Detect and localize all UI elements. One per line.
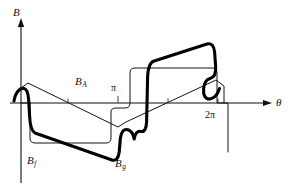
curve-label-BA-sub: A [82,81,87,89]
plot-svg [0,0,291,189]
curve-label-Bg-base: B [115,157,122,169]
curve-label-BA: BA [75,76,87,89]
x-tick-label-two-pi: 2π [205,110,215,120]
x-axis-arrowhead [263,100,272,106]
figure-canvas: B θ BA Bf Bg π 2π [0,0,291,189]
axis-group [10,18,272,183]
x-tick-label-pi: π [111,83,116,93]
curve-label-Bg-sub: g [122,163,126,171]
y-axis-label: B [13,7,20,18]
curve-label-Bf: Bf [27,155,36,168]
x-axis-label: θ [276,97,281,108]
curve-label-Bf-base: B [27,154,34,166]
curve-label-Bf-sub: f [34,160,36,168]
y-axis-arrowhead [18,18,24,27]
curve-label-Bg: Bg [115,158,126,171]
curve-label-BA-base: B [75,75,82,87]
